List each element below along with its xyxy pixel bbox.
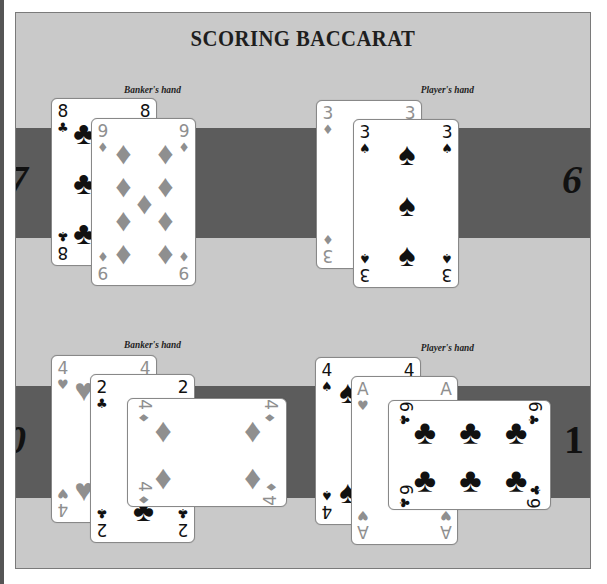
player-hand-label: Player's hand [421, 83, 474, 95]
diamonds-pip-icon: ♦ [157, 204, 173, 236]
card-corner-index: 9♦ [178, 250, 190, 281]
card-corner-index: 4♠ [321, 362, 333, 393]
clubs-suit-icon: ♣ [57, 230, 69, 243]
clubs-suit-icon: ♣ [398, 414, 411, 426]
clubs-pip-icon: ♣ [414, 463, 436, 497]
diamonds-pip-icon: ♦ [115, 204, 131, 236]
clubs-pip-icon: ♣ [459, 415, 481, 449]
clubs-suit-icon: ♣ [527, 414, 540, 426]
spades-suit-icon: ♠ [321, 380, 333, 393]
card-rank: 4 [261, 495, 278, 506]
card-rank: 4 [136, 481, 153, 492]
diamonds-pip-icon: ♦ [244, 413, 261, 447]
diamonds-suit-icon: ♦ [322, 123, 334, 136]
banker-score: 0 [15, 420, 26, 460]
card-corner-index: 9♦ [97, 250, 109, 281]
hearts-suit-icon: ♥ [357, 509, 369, 522]
clubs-suit-icon: ♣ [96, 507, 108, 520]
playing-card-9-of-diamonds: 9♦9♦9♦9♦♦♦♦♦♦♦♦♦♦ [91, 118, 196, 286]
player-score: 6 [562, 160, 582, 200]
card-corner-index: 4♦ [136, 481, 153, 505]
card-corner-index: 4♥ [57, 487, 69, 518]
card-rank: 8 [57, 244, 69, 261]
diamonds-suit-icon: ♦ [178, 141, 190, 154]
playing-card-6-of-clubs: 6♣6♣6♣6♣♣♣♣♣♣♣ [388, 400, 551, 510]
diamonds-pip-icon: ♦ [136, 187, 152, 219]
spades-suit-icon: ♠ [441, 142, 453, 155]
diamonds-pip-icon: ♦ [157, 170, 173, 202]
card-corner-index: 8♣ [57, 103, 69, 134]
card-corner-index: 3♠ [359, 124, 371, 155]
baccarat-diagram: SCORING BACCARAT Banker's hand Player's … [15, 12, 591, 569]
card-rank: 4 [57, 501, 69, 518]
card-corner-index: A♥ [357, 509, 369, 540]
diamonds-suit-icon: ♦ [137, 494, 150, 506]
card-rank: 8 [57, 103, 69, 120]
player-hand-label: Player's hand [421, 341, 474, 353]
diamonds-suit-icon: ♦ [263, 412, 276, 424]
card-rank: A [440, 381, 452, 398]
banker-score: 7 [15, 160, 28, 200]
page-edge [0, 0, 4, 584]
card-rank: 3 [359, 266, 371, 283]
card-rank: 6 [397, 484, 414, 495]
clubs-suit-icon: ♣ [177, 507, 189, 520]
card-rank: A [357, 523, 369, 540]
spades-suit-icon: ♠ [359, 142, 371, 155]
card-corner-index: 6♣ [397, 401, 414, 425]
card-corner-index: 9♦ [97, 123, 109, 154]
card-rank: 3 [359, 124, 371, 141]
card-rank: 2 [177, 379, 189, 396]
banker-hand-label: Banker's hand [124, 338, 181, 350]
card-rank: 9 [178, 123, 190, 140]
card-rank: 3 [441, 124, 453, 141]
banker-hand-label: Banker's hand [124, 83, 181, 95]
player-score: 1 [564, 420, 584, 460]
diamonds-suit-icon: ♦ [178, 250, 190, 263]
card-corner-index: 3♦ [322, 233, 334, 264]
diamonds-pip-icon: ♦ [155, 460, 172, 494]
card-rank: 3 [441, 266, 453, 283]
card-rank: 6 [525, 498, 542, 509]
card-corner-index: 4♠ [321, 489, 333, 520]
diamonds-suit-icon: ♦ [97, 141, 109, 154]
playing-card-3-of-spades: 3♠3♠3♠3♠♠♠♠ [353, 119, 459, 288]
card-rank: A [440, 523, 452, 540]
card-rank: 2 [96, 379, 108, 396]
clubs-suit-icon: ♣ [57, 121, 69, 134]
card-rank: 3 [322, 247, 334, 264]
card-rank: 4 [321, 362, 333, 379]
card-rank: 9 [178, 264, 190, 281]
card-corner-index: A♥ [357, 381, 369, 412]
diamonds-pip-icon: ♦ [115, 237, 131, 269]
card-rank: 2 [177, 521, 189, 538]
hearts-suit-icon: ♥ [440, 509, 452, 522]
hearts-suit-icon: ♥ [357, 399, 369, 412]
playing-card-4-of-diamonds: 4♦4♦4♦4♦♦♦♦♦ [127, 398, 287, 507]
card-rank: 6 [525, 401, 542, 412]
diamonds-pip-icon: ♦ [115, 137, 131, 169]
clubs-suit-icon: ♣ [528, 484, 541, 496]
card-corner-index: 2♣ [96, 379, 108, 410]
card-rank: 3 [322, 105, 334, 122]
clubs-pip-icon: ♣ [505, 415, 527, 449]
spades-pip-icon: ♠ [399, 138, 416, 170]
card-rank: 9 [97, 264, 109, 281]
clubs-pip-icon: ♣ [505, 463, 527, 497]
card-corner-index: 4♦ [136, 399, 153, 423]
card-rank: 6 [397, 401, 414, 412]
card-rank: 4 [57, 360, 69, 377]
card-corner-index: 3♠ [441, 252, 453, 283]
card-corner-index: 6♣ [525, 401, 542, 425]
card-corner-index: A♥ [440, 509, 452, 540]
card-corner-index: 6♣ [397, 484, 414, 508]
diamonds-pip-icon: ♦ [115, 170, 131, 202]
diamonds-suit-icon: ♦ [97, 250, 109, 263]
card-corner-index: 3♦ [322, 105, 334, 136]
diamonds-suit-icon: ♦ [264, 481, 277, 493]
spades-pip-icon: ♠ [399, 189, 416, 221]
card-corner-index: 2♣ [177, 507, 189, 538]
clubs-suit-icon: ♣ [398, 497, 411, 509]
diamonds-pip-icon: ♦ [155, 413, 172, 447]
diamonds-suit-icon: ♦ [322, 233, 334, 246]
